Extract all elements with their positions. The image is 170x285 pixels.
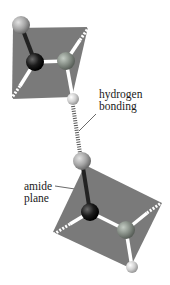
amide-plane-leader [55,186,75,189]
hydrogen-bond [73,106,80,153]
nitrogen-atom-lower [117,221,135,239]
carbon-atom-lower [81,203,99,221]
amide-plane-label: amide plane [24,180,52,204]
hydrogen-atom-lower [126,261,138,273]
amide-plane-label-line1: amide [24,180,52,192]
hydrogen-atom-upper [67,93,79,105]
oxygen-atom-lower [73,152,91,170]
amide-plane-lower [53,165,162,268]
hydrogen-bonding-leader [79,114,96,131]
hydrogen-bonding-label-line2: bonding [99,100,142,112]
lower-amide [53,152,162,273]
amide-plane-label-line2: plane [24,192,52,204]
hydrogen-bonding-label: hydrogen bonding [99,88,142,112]
carbon-atom-upper [26,53,44,71]
upper-amide [11,16,89,105]
nitrogen-atom-upper [57,52,75,70]
hydrogen-bonding-label-line1: hydrogen [99,88,142,100]
oxygen-atom-upper [12,16,30,34]
amide-hydrogen-bond-diagram [0,0,170,285]
